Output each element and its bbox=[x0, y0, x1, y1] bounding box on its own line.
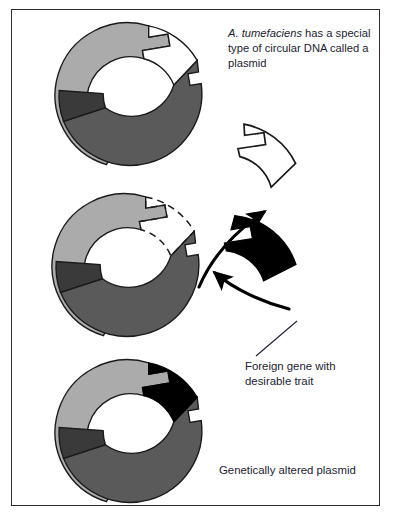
excised-fragment-shape bbox=[238, 124, 296, 187]
diagram-canvas bbox=[0, 0, 393, 516]
cut-plasmid bbox=[52, 194, 199, 337]
insertion-arrow bbox=[215, 273, 289, 309]
foreign-gene-fragment bbox=[224, 216, 296, 281]
altered-plasmid bbox=[55, 360, 202, 503]
caption-altered-plasmid: Genetically altered plasmid bbox=[219, 463, 379, 478]
caption-plasmid-intro: A. tumefaciens has a special type of cir… bbox=[228, 26, 374, 70]
foreign-gene-leader-line bbox=[256, 321, 297, 356]
excised-plasmid-fragment bbox=[238, 124, 296, 187]
species-name: A. tumefaciens bbox=[228, 27, 302, 39]
caption-foreign-gene: Foreign gene with desirable trait bbox=[245, 359, 380, 389]
foreign-gene-shape bbox=[224, 216, 296, 281]
plasmid-engineering-figure: A. tumefaciens has a special type of cir… bbox=[0, 0, 393, 516]
original-plasmid bbox=[55, 23, 202, 166]
